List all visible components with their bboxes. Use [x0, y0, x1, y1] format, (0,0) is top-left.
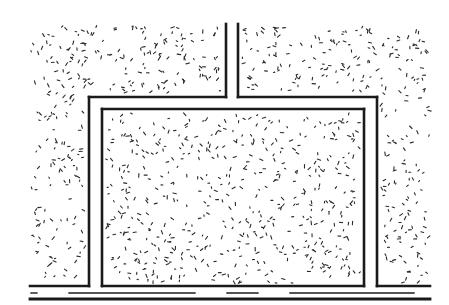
stipple-fill: [31, 26, 431, 285]
diagram-canvas: [0, 0, 449, 305]
channel-walls: [30, 24, 430, 299]
cross-section-drawing: [0, 0, 449, 305]
